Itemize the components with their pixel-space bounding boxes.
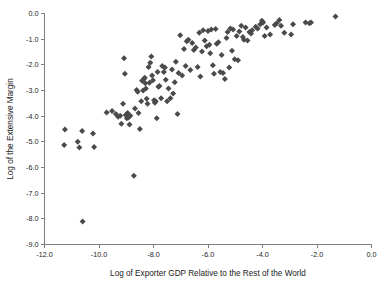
data-point — [132, 105, 138, 111]
data-point — [120, 101, 126, 107]
y-tick-label: -2.0 — [26, 60, 38, 69]
x-tick-label: -8.0 — [147, 250, 159, 259]
data-point — [80, 218, 86, 224]
x-tick-label: -6.0 — [202, 250, 214, 259]
x-tick-label: 0.0 — [367, 250, 377, 259]
data-point — [91, 144, 97, 150]
y-tick-label: -7.0 — [26, 189, 38, 198]
data-point — [262, 33, 268, 39]
data-point — [121, 55, 127, 61]
y-axis-title: Log of the Extensive Margin — [6, 78, 15, 180]
data-points — [61, 14, 338, 225]
data-point — [197, 73, 203, 79]
y-axis-ticks: 0.0-1.0-2.0-3.0-4.0-5.0-6.0-7.0-8.0-9.0 — [26, 9, 44, 249]
data-point — [229, 48, 235, 54]
x-axis-title: Log of Exporter GDP Relative to the Rest… — [110, 269, 306, 278]
data-point — [79, 128, 85, 134]
x-axis-ticks: -12.0-10.0-8.0-6.0-4.0-2.00.0 — [36, 245, 376, 260]
data-point — [267, 32, 273, 38]
data-point — [210, 62, 216, 68]
x-tick-label: -12.0 — [36, 250, 52, 259]
data-point — [170, 91, 176, 97]
y-tick-label: -3.0 — [26, 86, 38, 95]
data-point — [219, 52, 225, 58]
data-point — [288, 32, 294, 38]
data-point — [199, 48, 205, 54]
data-point — [169, 66, 175, 72]
data-point — [177, 32, 183, 38]
data-point — [131, 173, 137, 179]
data-point — [236, 28, 242, 34]
scatter-chart: 0.0-1.0-2.0-3.0-4.0-5.0-6.0-7.0-8.0-9.0 … — [0, 0, 388, 293]
data-point — [155, 69, 161, 75]
data-point — [62, 127, 68, 133]
data-point — [333, 14, 339, 20]
data-point — [172, 79, 178, 85]
data-point — [226, 64, 232, 70]
data-point — [136, 110, 142, 116]
data-point — [122, 71, 128, 77]
data-point — [222, 76, 228, 82]
y-tick-label: 0.0 — [29, 9, 39, 18]
data-point — [290, 21, 296, 27]
data-point — [104, 110, 110, 116]
data-point — [211, 71, 217, 77]
y-tick-label: -8.0 — [26, 214, 38, 223]
data-point — [76, 144, 82, 150]
data-point — [161, 69, 167, 75]
data-point — [195, 64, 201, 70]
data-point — [158, 95, 164, 101]
y-tick-label: -4.0 — [26, 112, 38, 121]
data-point — [75, 139, 81, 145]
data-point — [149, 73, 155, 79]
data-point — [264, 25, 270, 31]
data-point — [234, 33, 240, 39]
data-point — [281, 30, 287, 36]
y-tick-label: -1.0 — [26, 35, 38, 44]
data-point — [118, 121, 124, 127]
data-point — [61, 142, 67, 148]
data-point — [163, 77, 169, 83]
data-point — [213, 26, 219, 32]
data-point — [138, 98, 144, 104]
data-point — [224, 35, 230, 41]
data-point — [207, 50, 213, 56]
y-tick-label: -6.0 — [26, 163, 38, 172]
data-point — [137, 126, 143, 132]
data-point — [183, 63, 189, 69]
data-point — [148, 54, 154, 60]
x-tick-label: -2.0 — [311, 250, 323, 259]
data-point — [181, 46, 187, 52]
data-point — [154, 115, 160, 121]
data-point — [173, 59, 179, 65]
data-point — [165, 85, 171, 91]
data-point — [127, 121, 133, 127]
data-point — [187, 67, 193, 73]
y-tick-label: -9.0 — [26, 240, 38, 249]
data-point — [144, 96, 150, 102]
data-point — [90, 131, 96, 137]
x-tick-label: -10.0 — [91, 250, 107, 259]
plot-area: 0.0-1.0-2.0-3.0-4.0-5.0-6.0-7.0-8.0-9.0 … — [0, 0, 388, 293]
x-tick-label: -4.0 — [256, 250, 268, 259]
y-tick-label: -5.0 — [26, 137, 38, 146]
data-point — [174, 111, 180, 117]
data-point — [145, 101, 151, 107]
data-point — [202, 37, 208, 43]
